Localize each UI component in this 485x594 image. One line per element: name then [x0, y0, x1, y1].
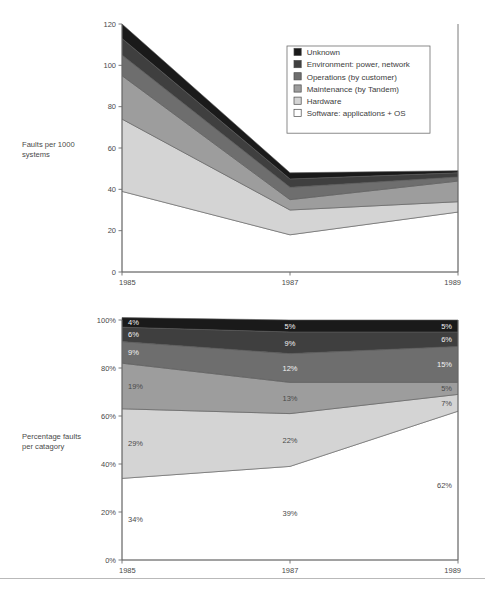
- x-tick-label: 1985: [119, 278, 136, 287]
- legend-label-maintenance: Maintenance (by Tandem): [307, 85, 400, 94]
- y-axis-title-bottom: Percentage faultsper catagory: [22, 432, 102, 452]
- legend-label-environment: Environment: power, network: [307, 60, 411, 69]
- data-label-software: 34%: [128, 515, 143, 524]
- legend-swatch-operations: [294, 73, 301, 80]
- data-label-hardware: 22%: [282, 436, 297, 445]
- data-label-maintenance: 19%: [128, 382, 143, 391]
- y-axis-title-top: Faults per 1000systems: [22, 140, 102, 160]
- legend-item-operations[interactable]: Operations (by customer): [294, 73, 397, 82]
- legend-label-unknown: Unknown: [307, 48, 340, 57]
- legend-swatch-software: [294, 109, 301, 116]
- y-tick-label: 40%: [101, 460, 116, 469]
- y-tick-label: 100%: [97, 316, 117, 325]
- y-axis-title-top-line: Faults per 1000: [22, 140, 102, 150]
- y-tick-label: 40: [108, 185, 116, 194]
- legend-item-maintenance[interactable]: Maintenance (by Tandem): [294, 85, 399, 94]
- y-axis-title-bottom-line: per catagory: [22, 442, 102, 452]
- data-label-hardware: 29%: [128, 439, 143, 448]
- y-axis-title-bottom-line: Percentage faults: [22, 432, 102, 442]
- x-tick-label: 1987: [282, 278, 299, 287]
- footer-divider: [0, 578, 485, 579]
- legend-label-operations: Operations (by customer): [307, 73, 398, 82]
- legend-swatch-unknown: [294, 48, 301, 55]
- x-tick-label: 1989: [444, 566, 461, 575]
- data-label-unknown: 4%: [128, 318, 139, 327]
- y-tick-label: 80%: [101, 364, 116, 373]
- data-label-maintenance: 5%: [441, 384, 452, 393]
- y-tick-label: 60: [108, 144, 116, 153]
- y-tick-label: 20: [108, 226, 116, 235]
- data-label-software: 39%: [282, 509, 297, 518]
- data-label-environment: 6%: [441, 335, 452, 344]
- legend-label-hardware: Hardware: [307, 97, 342, 106]
- legend-swatch-hardware: [294, 97, 301, 104]
- data-label-operations: 15%: [437, 360, 452, 369]
- legend-label-software: Software: applications + OS: [307, 109, 406, 118]
- y-tick-label: 80: [108, 102, 116, 111]
- y-tick-label: 20%: [101, 508, 116, 517]
- x-tick-label: 1989: [444, 278, 461, 287]
- data-label-maintenance: 13%: [282, 394, 297, 403]
- legend-item-environment[interactable]: Environment: power, network: [294, 60, 411, 69]
- x-tick-label: 1987: [282, 566, 299, 575]
- y-tick-label: 0%: [105, 556, 116, 565]
- data-label-unknown: 5%: [285, 322, 296, 331]
- legend-item-software[interactable]: Software: applications + OS: [294, 109, 406, 118]
- data-label-hardware: 7%: [441, 399, 452, 408]
- x-tick-label: 1985: [119, 566, 136, 575]
- data-label-operations: 9%: [128, 348, 139, 357]
- legend: UnknownEnvironment: power, networkOperat…: [287, 46, 430, 133]
- y-tick-label: 100: [103, 61, 116, 70]
- data-label-environment: 6%: [128, 330, 139, 339]
- data-label-unknown: 5%: [441, 322, 452, 331]
- y-tick-label: 120: [103, 20, 116, 29]
- data-label-software: 62%: [437, 481, 452, 490]
- y-tick-label: 0: [112, 268, 116, 277]
- y-tick-label: 60%: [101, 412, 116, 421]
- data-label-environment: 9%: [285, 339, 296, 348]
- y-axis-title-top-line: systems: [22, 150, 102, 160]
- legend-swatch-maintenance: [294, 85, 301, 92]
- data-label-operations: 12%: [282, 364, 297, 373]
- legend-swatch-environment: [294, 61, 301, 68]
